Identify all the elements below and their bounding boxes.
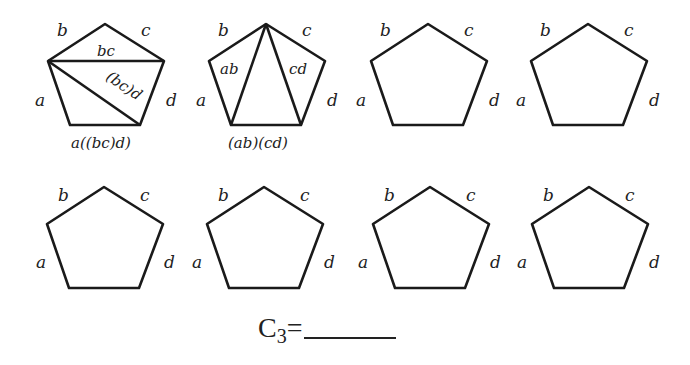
- edge-label-d: d: [490, 252, 501, 272]
- pentagon-2: b c a d ab cd (ab)(cd): [196, 20, 338, 152]
- pentagon-3: b c a d: [356, 20, 500, 125]
- edge-label-d: d: [166, 90, 177, 110]
- edge-label-c: c: [625, 185, 635, 205]
- pentagon-5: b c a d: [36, 185, 175, 288]
- edge-label-d: d: [649, 90, 660, 110]
- pentagon-figure: b c a d bc (bc)d a((bc)d) b c a d ab cd …: [0, 0, 690, 365]
- edge-label-b: b: [218, 185, 229, 205]
- edge-label-b: b: [540, 20, 551, 40]
- edge-label-c: c: [302, 20, 312, 40]
- edge-label-a: a: [516, 90, 526, 110]
- edge-label-d: d: [324, 252, 335, 272]
- pentagon-6: b c a d: [192, 185, 335, 288]
- pentagon-7: b c a d: [358, 185, 501, 288]
- pentagon-4: b c a d: [516, 20, 660, 125]
- edge-label-a: a: [356, 90, 366, 110]
- bottom-label-a-bc-d: a((bc)d): [71, 134, 131, 152]
- caption-symbol: C: [258, 312, 277, 343]
- caption-subscript: 3: [277, 325, 287, 347]
- edge-label-c: c: [466, 185, 476, 205]
- edge-label-c: c: [141, 20, 151, 40]
- edge-label-b: b: [57, 20, 68, 40]
- answer-blank[interactable]: [304, 315, 396, 339]
- edge-label-c: c: [624, 20, 634, 40]
- catalan-caption: C3=: [258, 312, 396, 348]
- inner-label-bcd: (bc)d: [103, 67, 146, 104]
- edge-label-a: a: [196, 90, 206, 110]
- edge-label-d: d: [649, 252, 660, 272]
- edge-label-c: c: [300, 185, 310, 205]
- edge-label-b: b: [543, 185, 554, 205]
- edge-label-d: d: [489, 90, 500, 110]
- edge-label-a: a: [358, 252, 368, 272]
- edge-label-b: b: [380, 20, 391, 40]
- inner-label-cd: cd: [289, 60, 307, 78]
- pentagon-8: b c a d: [517, 185, 660, 288]
- edge-label-a: a: [192, 252, 202, 272]
- edge-label-a: a: [35, 90, 45, 110]
- edge-label-b: b: [58, 185, 69, 205]
- pentagon-1: b c a d bc (bc)d a((bc)d): [35, 20, 177, 152]
- inner-label-bc: bc: [97, 42, 116, 60]
- edge-label-b: b: [218, 20, 229, 40]
- inner-label-ab: ab: [220, 60, 239, 78]
- edge-label-c: c: [140, 185, 150, 205]
- edge-label-a: a: [36, 252, 46, 272]
- edge-label-b: b: [384, 185, 395, 205]
- edge-label-d: d: [164, 252, 175, 272]
- edge-label-a: a: [517, 252, 527, 272]
- caption-equals: =: [287, 312, 303, 343]
- edge-label-d: d: [327, 90, 338, 110]
- edge-label-c: c: [464, 20, 474, 40]
- bottom-label-ab-cd: (ab)(cd): [228, 134, 288, 152]
